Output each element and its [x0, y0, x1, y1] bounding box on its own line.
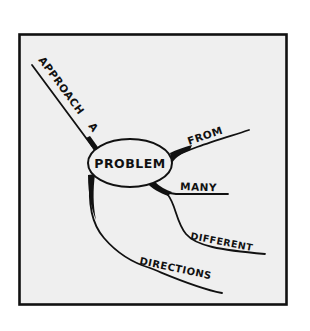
- branch-label-many: MANY: [180, 180, 217, 193]
- center-node: PROBLEM: [88, 139, 172, 187]
- center-node-label: PROBLEM: [94, 156, 165, 171]
- mind-map-canvas: APPROACH A FROM MANY DIFFERENT DIRECTION…: [0, 0, 310, 331]
